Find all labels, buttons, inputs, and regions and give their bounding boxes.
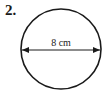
circle-diagram: 8 cm	[0, 0, 110, 97]
circle-outline	[21, 9, 101, 89]
diameter-label: 8 cm	[51, 37, 71, 48]
